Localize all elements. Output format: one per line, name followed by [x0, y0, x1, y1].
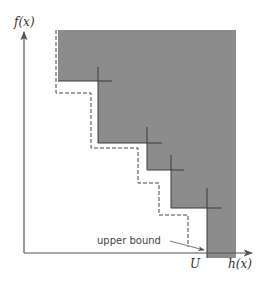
y-axis-label: f(x) [13, 15, 35, 29]
pareto-diagram: f(x) h(x) U upper bound [0, 0, 266, 283]
u-label: U [190, 257, 201, 271]
upper-bound-label: upper bound [97, 235, 161, 246]
x-axis-label: h(x) [228, 257, 252, 271]
upper-bound-pointer-arrow [170, 241, 204, 250]
